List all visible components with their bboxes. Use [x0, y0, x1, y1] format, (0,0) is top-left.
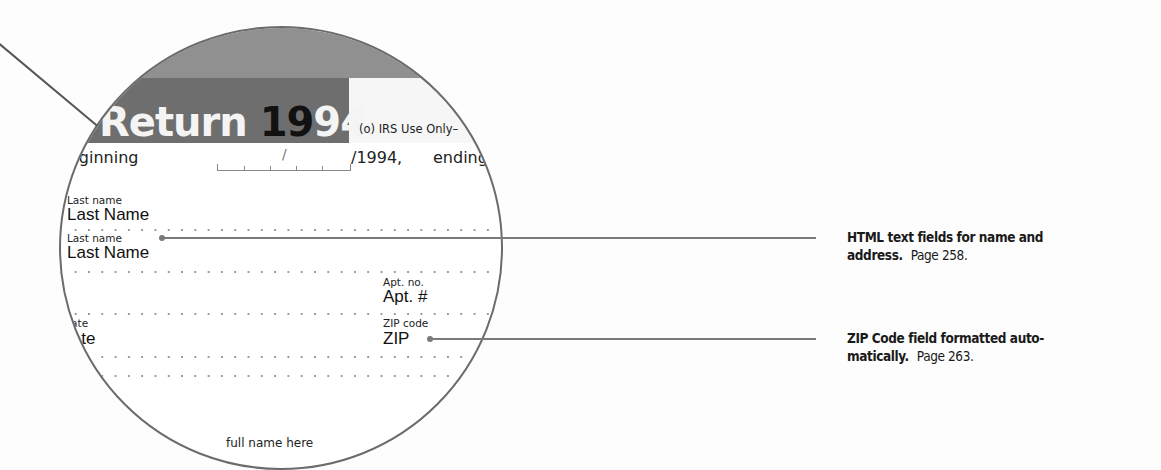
- magnifier-lens: Return 1994 (o) IRS Use Only– eginning /…: [61, 28, 501, 468]
- dotted-rule: [69, 271, 489, 273]
- form-title: Return 1994: [99, 102, 367, 142]
- state-field[interactable]: tate: [67, 330, 95, 347]
- apt-field[interactable]: Apt. #: [383, 288, 427, 305]
- callout-dot-1: [159, 235, 165, 241]
- header-band-light: [61, 28, 501, 78]
- callout-note-1: HTML text fields for name and address.Pa…: [847, 228, 1077, 264]
- last-name-field-2[interactable]: Last Name: [67, 244, 149, 261]
- ending-label: ending: [433, 148, 488, 167]
- beginning-label: eginning: [69, 148, 138, 167]
- callout-2-page-link[interactable]: Page 263.: [917, 348, 974, 364]
- dotted-rule: [69, 375, 489, 377]
- zip-field[interactable]: ZIP: [383, 330, 409, 347]
- dotted-rule: [69, 229, 489, 231]
- callout-2-line1: ZIP Code field formatted auto-: [847, 330, 1044, 346]
- zip-code-label: ZIP code: [383, 317, 428, 329]
- last-name-field-1[interactable]: Last Name: [67, 206, 149, 223]
- state-label: tate: [67, 317, 88, 329]
- callout-1-page-link[interactable]: Page 258.: [911, 247, 968, 263]
- callout-1-line1: HTML text fields for name and: [847, 229, 1043, 245]
- callout-line-2: [430, 338, 816, 340]
- year-black: 19: [260, 99, 314, 145]
- callout-2-line2: matically.: [847, 348, 909, 364]
- callout-line-1: [162, 237, 816, 239]
- date-input-boxes[interactable]: [217, 164, 351, 171]
- bottom-form-text: full name here: [226, 436, 313, 450]
- year-suffix: /1994,: [351, 148, 402, 167]
- dotted-rule: [69, 313, 489, 315]
- title-text: Return: [99, 99, 260, 145]
- callout-1-line2: address.: [847, 247, 903, 263]
- callout-note-2: ZIP Code field formatted auto- matically…: [847, 329, 1077, 365]
- dotted-rule: [69, 356, 489, 358]
- irs-use-only-label: (o) IRS Use Only–: [359, 122, 458, 136]
- callout-dot-2: [427, 336, 433, 342]
- date-slash: /: [282, 146, 287, 162]
